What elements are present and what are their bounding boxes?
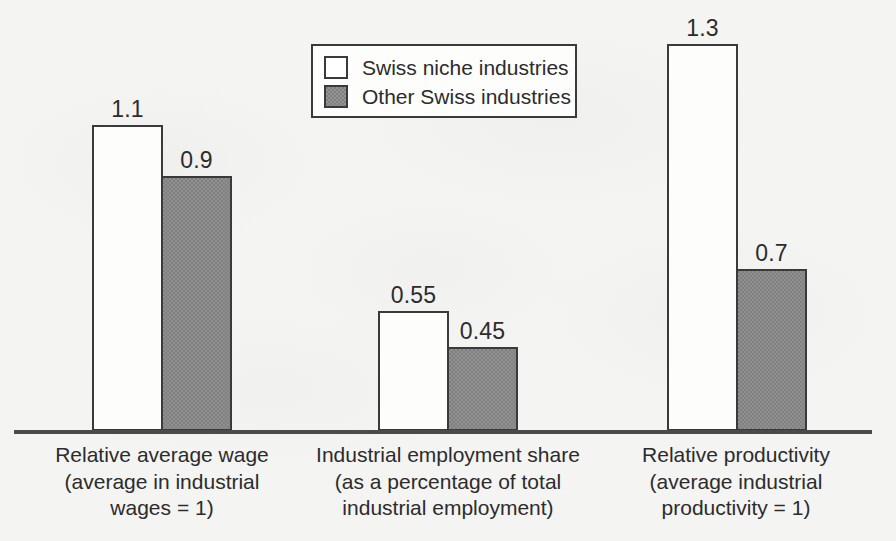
legend-item-label: Swiss niche industries (362, 56, 569, 80)
gray-square-swatch-icon (324, 85, 348, 108)
bar-group-2-series-0 (667, 44, 738, 431)
legend-item-swiss-niche-industries: Swiss niche industries (324, 53, 575, 82)
category-label-line: (as a percentage of total (298, 469, 598, 496)
bar-value-group-1-series-0: 0.55 (378, 282, 449, 309)
bar-value-group-2-series-0: 1.3 (667, 15, 738, 42)
bar-value-group-0-series-1: 0.9 (161, 147, 232, 174)
category-label-2: Relative productivity (average industria… (586, 442, 886, 522)
category-label-line: Relative productivity (586, 442, 886, 469)
legend-item-label: Other Swiss industries (362, 85, 571, 109)
bar-value-group-2-series-1: 0.7 (736, 240, 807, 267)
bar-group-1-series-0 (378, 311, 449, 431)
category-label-line: productivity = 1) (586, 495, 886, 522)
category-label-line: Relative average wage (12, 442, 312, 469)
white-square-swatch-icon (324, 56, 348, 79)
chart-legend: Swiss niche industries Other Swiss indus… (311, 44, 577, 118)
category-label-line: (average in industrial (12, 469, 312, 496)
bar-group-0-series-0 (92, 125, 163, 431)
category-label-line: wages = 1) (12, 495, 312, 522)
chart-figure: 1.1 0.9 0.55 0.45 1.3 0.7 Swiss niche in… (0, 0, 896, 541)
category-label-1: Industrial employment share (as a percen… (298, 442, 598, 522)
bar-value-group-0-series-0: 1.1 (92, 96, 163, 123)
category-label-0: Relative average wage (average in indust… (12, 442, 312, 522)
category-label-line: Industrial employment share (298, 442, 598, 469)
category-label-line: (average industrial (586, 469, 886, 496)
bar-group-0-series-1 (161, 176, 232, 431)
legend-item-other-swiss-industries: Other Swiss industries (324, 82, 575, 111)
bar-value-group-1-series-1: 0.45 (447, 318, 518, 345)
bar-group-2-series-1 (736, 269, 807, 431)
category-label-line: industrial employment) (298, 495, 598, 522)
bar-group-1-series-1 (447, 347, 518, 431)
x-axis-baseline (14, 430, 872, 434)
